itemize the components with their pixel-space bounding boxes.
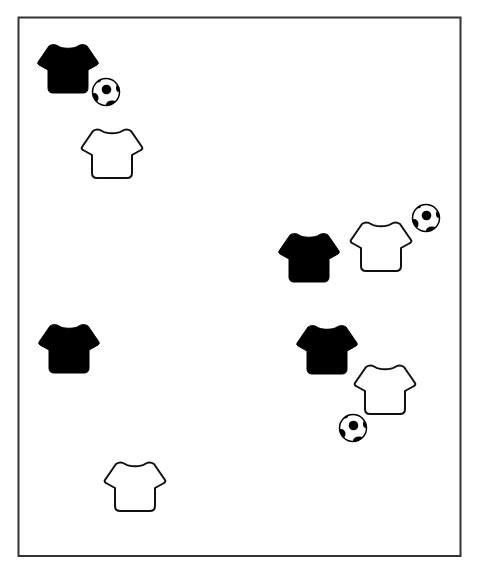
drill-diagram: Soccer drill setup (0, 0, 478, 585)
field-boundary (19, 18, 461, 557)
